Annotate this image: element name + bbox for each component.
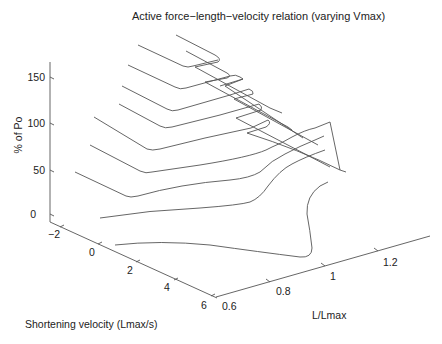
velocity-axis-label: Shortening velocity (Lmax/s) (25, 318, 157, 330)
z-tick-50: 50 (33, 164, 45, 176)
curve-series (75, 35, 346, 257)
velocity-axis: −2 0 2 4 6 Shortening velocity (Lmax/s) (25, 222, 217, 330)
z-axis-label: % of Po (12, 116, 24, 153)
z-tick-150: 150 (27, 71, 45, 83)
curve-7 (90, 122, 340, 173)
chart-canvas: Active force−length−velocity relation (v… (0, 0, 442, 344)
l-tick-0.8: 0.8 (276, 285, 291, 297)
length-axis-label: L/Lmax (312, 309, 347, 321)
curve-8 (75, 136, 324, 197)
l-tick-1: 1 (330, 270, 336, 282)
curve-3 (128, 65, 303, 138)
curve-6 (94, 117, 346, 172)
chart-title: Active force−length−velocity relation (v… (132, 10, 385, 22)
curve-5 (119, 104, 330, 167)
z-tick-0: 0 (30, 208, 36, 220)
z-axis: 0 50 100 150 % of Po (12, 62, 54, 222)
curve-9 (100, 150, 325, 218)
l-tick-0.6: 0.6 (222, 300, 237, 312)
v-tick-6: 6 (201, 299, 207, 311)
v-tick-0: 0 (89, 246, 95, 258)
v-tick-4: 4 (164, 281, 170, 293)
curve-4 (122, 86, 318, 145)
v-tick-2: 2 (127, 264, 133, 276)
l-tick-1.2: 1.2 (383, 256, 398, 268)
length-axis: 0.6 0.8 1 1.2 L/Lmax (216, 236, 430, 321)
v-tick-neg2: −2 (48, 228, 60, 240)
z-tick-100: 100 (27, 117, 45, 129)
curve-2 (138, 45, 292, 130)
